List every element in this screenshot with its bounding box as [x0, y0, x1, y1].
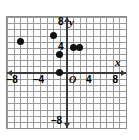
data-point [17, 38, 24, 45]
x-tick-label: 8 [112, 75, 118, 85]
y-axis-arrow-down [64, 123, 70, 128]
x-tick-label: –8 [7, 75, 18, 85]
y-axis-label: y [69, 17, 74, 28]
y-tick-label: –8 [51, 116, 62, 126]
x-axis-label: x [115, 57, 121, 68]
y-axis [66, 17, 68, 128]
x-tick-label: 4 [86, 75, 92, 85]
x-axis-arrow-right [121, 70, 126, 76]
gridline-vertical [126, 17, 127, 128]
coordinate-plane-figure: –8–44884–8Oxy [0, 0, 139, 140]
y-tick-label: 8 [58, 17, 64, 27]
data-point [56, 69, 63, 76]
x-tick-label: –4 [33, 75, 44, 85]
data-point [76, 44, 83, 51]
plot-area [6, 16, 127, 129]
origin-label: O [69, 75, 76, 85]
data-point [50, 32, 57, 39]
y-tick-label: 4 [58, 42, 64, 52]
gridline-horizontal [7, 128, 126, 129]
